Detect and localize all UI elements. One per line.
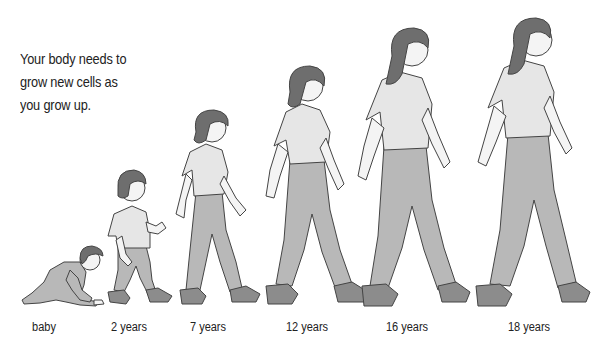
- figure-12-years: [266, 66, 368, 304]
- figure-18-years: [476, 18, 590, 306]
- stage-label-baby: baby: [32, 320, 56, 334]
- stage-label-12-years: 12 years: [286, 320, 328, 334]
- stage-label-18-years: 18 years: [508, 320, 550, 334]
- figure-2-years: [108, 170, 172, 304]
- stage-label-2-years: 2 years: [111, 320, 147, 334]
- figure-16-years: [358, 28, 470, 306]
- stage-label-16-years: 16 years: [386, 320, 428, 334]
- stage-label-7-years: 7 years: [190, 320, 226, 334]
- figure-baby: [22, 246, 104, 306]
- figure-7-years: [176, 110, 260, 304]
- growth-illustration: .ol { stroke: #444; stroke-width: 1; str…: [0, 0, 615, 349]
